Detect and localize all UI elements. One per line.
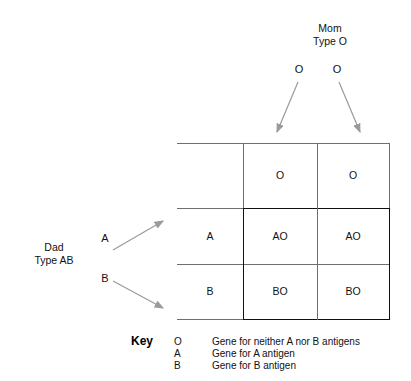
arrow-dad-allele-a bbox=[113, 221, 163, 250]
key-symbol-o: O bbox=[174, 336, 212, 348]
arrow-mom-allele-2 bbox=[339, 82, 360, 132]
mom-parent-label: Mom Type O bbox=[275, 22, 385, 48]
key-entry-o: O Gene for neither A nor B antigens bbox=[174, 336, 410, 348]
offspring-cell-r1c2: AO bbox=[317, 230, 389, 242]
dad-name: Dad bbox=[8, 241, 100, 254]
dad-allele-a: A bbox=[94, 232, 116, 245]
dad-blood-type: Type AB bbox=[8, 254, 100, 267]
key-symbol-b: B bbox=[174, 360, 212, 372]
key-entry-b: B Gene for B antigen bbox=[174, 360, 410, 372]
grid-line-top bbox=[177, 143, 390, 144]
mom-name: Mom bbox=[275, 22, 385, 35]
key-legend: O Gene for neither A nor B antigens A Ge… bbox=[174, 336, 410, 372]
grid-column-header-1: O bbox=[243, 169, 317, 181]
key-description-b: Gene for B antigen bbox=[212, 360, 296, 372]
mom-allele-2: O bbox=[326, 63, 348, 76]
key-entry-a: A Gene for A antigen bbox=[174, 348, 410, 360]
offspring-box-divider bbox=[317, 208, 318, 320]
mom-allele-1: O bbox=[288, 63, 310, 76]
key-title: Key bbox=[131, 334, 153, 348]
key-symbol-a: A bbox=[174, 348, 212, 360]
offspring-cell-r2c1: BO bbox=[243, 285, 317, 297]
key-description-o: Gene for neither A nor B antigens bbox=[212, 336, 360, 348]
grid-column-header-2: O bbox=[317, 169, 389, 181]
dad-allele-b: B bbox=[94, 272, 116, 285]
dad-parent-label: Dad Type AB bbox=[8, 241, 100, 267]
grid-row-header-2: B bbox=[177, 285, 243, 297]
offspring-cell-r1c1: AO bbox=[243, 230, 317, 242]
offspring-cell-r2c2: BO bbox=[317, 285, 389, 297]
key-description-a: Gene for A antigen bbox=[212, 348, 295, 360]
mom-blood-type: Type O bbox=[275, 35, 385, 48]
punnett-grid: O O A B AO AO BO BO bbox=[177, 143, 390, 320]
punnett-square-diagram: Mom Type O O O Dad Type AB A B bbox=[0, 0, 411, 381]
grid-row-header-1: A bbox=[177, 230, 243, 242]
arrow-mom-allele-1 bbox=[277, 82, 298, 132]
arrow-dad-allele-b bbox=[113, 281, 163, 308]
